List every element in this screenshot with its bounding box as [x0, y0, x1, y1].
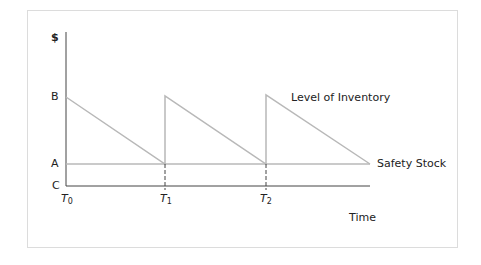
tick-label-t1: T1 [160, 193, 172, 206]
tick-label-t2: T2 [260, 193, 272, 206]
inventory-series-label: Level of Inventory [291, 92, 390, 103]
x-axis-label: Time [349, 212, 376, 223]
y-axis-label: $ [51, 32, 59, 43]
tick-label-b: B [51, 91, 59, 102]
inventory-chart [0, 0, 481, 265]
tick-label-a: A [51, 158, 59, 169]
safety-stock-label: Safety Stock [377, 158, 446, 169]
inventory-level-line [66, 95, 370, 164]
tick-label-c: C [52, 180, 60, 191]
tick-label-t0: T0 [61, 193, 73, 206]
